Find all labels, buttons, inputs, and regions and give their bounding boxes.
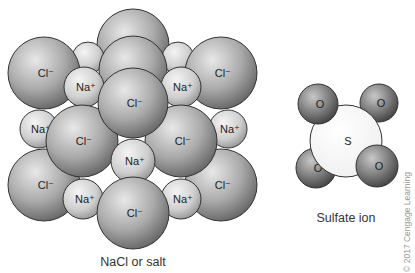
chloride-ion-label: Cl⁻ xyxy=(38,179,54,191)
sodium-ion-sphere: Na⁺ xyxy=(111,139,155,183)
chloride-ion-label: Cl⁻ xyxy=(127,97,143,109)
sulfur-atom-label: S xyxy=(344,135,351,147)
nacl-caption: NaCl or salt xyxy=(100,255,166,269)
sodium-ion-label: Na⁺ xyxy=(75,193,95,205)
sulfate-ion-model: OOSOO xyxy=(296,84,398,188)
oxygen-atom-label: O xyxy=(377,97,386,109)
oxygen-atom-sphere: O xyxy=(356,145,398,187)
nacl-crystal-lattice: Cl⁻Cl⁻Na⁺Na⁺Na⁺Na⁺Cl⁻Cl⁻Cl⁻Cl⁻Cl⁻Na⁺Na⁺N… xyxy=(8,9,257,249)
chloride-ion-label: Cl⁻ xyxy=(127,207,143,219)
sodium-ion-label: Na⁺ xyxy=(125,155,145,167)
sodium-ion-label: Na⁺ xyxy=(173,81,193,93)
chloride-ion-label: Cl⁻ xyxy=(215,67,231,79)
chloride-ion-label: Cl⁻ xyxy=(76,135,92,147)
oxygen-atom-label: O xyxy=(316,98,325,110)
chloride-ion-sphere: Cl⁻ xyxy=(98,68,168,138)
chloride-ion-label: Cl⁻ xyxy=(215,179,231,191)
chloride-ion-label: Cl⁻ xyxy=(38,67,54,79)
sodium-ion-label: Na⁺ xyxy=(76,81,96,93)
copyright-notice: © 2017 Cengage Learning xyxy=(402,172,412,272)
chloride-ion-sphere: Cl⁻ xyxy=(97,177,169,249)
oxygen-atom-sphere: O xyxy=(298,84,338,124)
oxygen-atom-label: O xyxy=(375,160,384,172)
chloride-ion-label: Cl⁻ xyxy=(175,135,191,147)
sodium-ion-label: Na⁺ xyxy=(220,123,240,135)
sodium-ion-label: Na⁺ xyxy=(173,193,193,205)
ionic-compounds-diagram: Cl⁻Cl⁻Na⁺Na⁺Na⁺Na⁺Cl⁻Cl⁻Cl⁻Cl⁻Cl⁻Na⁺Na⁺N… xyxy=(0,0,415,273)
sulfate-caption: Sulfate ion xyxy=(316,211,375,225)
